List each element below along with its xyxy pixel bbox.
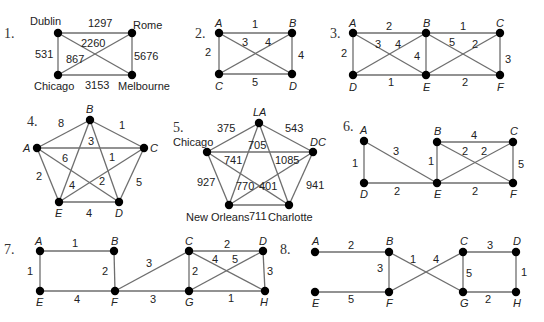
vertex-dot-icon <box>459 248 467 256</box>
edge-weight: 1 <box>228 292 234 304</box>
edge-weight: 4 <box>433 253 439 265</box>
vertex-dot-icon <box>496 71 504 79</box>
vertex-dot-icon <box>360 179 368 187</box>
edge-weight: 1 <box>252 18 258 30</box>
vertex-label: D <box>349 81 357 93</box>
graph-7: 7.112433223145ABCDEFGH <box>4 235 273 308</box>
edge-weight: 705 <box>248 139 266 151</box>
edge-weight: 2 <box>485 293 491 305</box>
edge-weight: 1 <box>109 151 115 163</box>
graph-number: 7. <box>4 242 15 257</box>
vertex-dot-icon <box>140 144 148 152</box>
edge-weight: 4 <box>212 253 218 265</box>
edge-weight: 4 <box>86 207 92 219</box>
vertex-dot-icon <box>261 287 269 295</box>
vertex-label: G <box>460 297 469 309</box>
edge-weight: 2 <box>99 175 105 187</box>
vertex-label: Chicago <box>34 80 74 92</box>
edge-weight: 2 <box>386 20 392 32</box>
edge-D-H <box>263 251 265 291</box>
vertex-label: LA <box>253 106 266 118</box>
vertex-label: H <box>513 297 521 309</box>
vertex-dot-icon <box>509 138 517 146</box>
vertex-label: C <box>496 17 504 29</box>
edge-weight: 3 <box>487 239 493 251</box>
edge-weight: 2 <box>462 76 468 88</box>
graph-number: 4. <box>27 114 38 129</box>
vertex-label: A <box>311 235 319 247</box>
edge-weight: 4 <box>395 38 401 50</box>
edge-weight: 2 <box>102 265 108 277</box>
vertex-dot-icon <box>509 179 517 187</box>
edge-weight: 3 <box>88 135 94 147</box>
graph-8: 8.235143512ABCDEFGH <box>280 235 527 309</box>
vertex-dot-icon <box>288 70 296 78</box>
edge-weight: 6 <box>62 152 68 164</box>
vertex-label: E <box>423 81 431 93</box>
graph-number: 3. <box>330 26 341 41</box>
edge-weight: 1 <box>352 157 358 169</box>
edge-weight: 4 <box>298 49 304 61</box>
edge-weight: 711 <box>249 210 267 222</box>
vertex-label: B <box>289 17 296 29</box>
vertex-label: F <box>111 296 119 308</box>
vertex-dot-icon <box>36 287 44 295</box>
vertex-dot-icon <box>215 29 223 37</box>
vertex-label: Rome <box>133 19 162 31</box>
edge-A-D <box>37 148 119 202</box>
vertex-label: H <box>260 296 268 308</box>
edge-weight: 3 <box>375 38 381 50</box>
vertex-label: B <box>86 103 93 115</box>
graph-exercise-canvas: 1.1297531567631532260867DublinRomeChicag… <box>0 0 544 322</box>
vertex-dot-icon <box>55 198 63 206</box>
edge-weight: 2 <box>462 145 468 157</box>
vertex-label: E <box>312 297 320 309</box>
vertex-label: B <box>386 235 393 247</box>
vertex-dot-icon <box>512 288 520 296</box>
vertex-label: A <box>22 142 30 154</box>
edge-weight: 3 <box>377 262 383 274</box>
vertex-label: C <box>460 235 468 247</box>
vertex-label: B <box>111 235 118 247</box>
vertex-label: D <box>115 207 123 219</box>
vertex-label: D <box>289 80 297 92</box>
vertex-label: C <box>150 142 158 154</box>
vertex-dot-icon <box>185 247 193 255</box>
edge-weight: 2 <box>348 239 354 251</box>
edge-weight: 1 <box>388 76 394 88</box>
vertex-dot-icon <box>496 29 504 37</box>
edge-weight: 2 <box>472 185 478 197</box>
vertex-label: F <box>386 297 394 309</box>
vertex-dot-icon <box>185 287 193 295</box>
vertex-label: DC <box>310 136 326 148</box>
vertex-dot-icon <box>54 29 62 37</box>
edge-weight: 3 <box>150 293 156 305</box>
edge-weight: 5 <box>252 76 258 88</box>
edge-weight: 3 <box>393 145 399 157</box>
vertex-label: C <box>215 80 223 92</box>
edge-weight: 2 <box>472 38 478 50</box>
vertex-dot-icon <box>115 198 123 206</box>
edge-weight: 1085 <box>275 154 299 166</box>
graph-1: 1.1297531567631532260867DublinRomeChicag… <box>4 15 170 92</box>
edge-weight: 4 <box>69 179 75 191</box>
edge-weight: 1 <box>460 20 466 32</box>
edge-weight: 2 <box>36 170 42 182</box>
graph-6: 6.132145222ABCDEF <box>343 119 524 200</box>
vertex-label: A <box>34 235 42 247</box>
vertex-dot-icon <box>36 247 44 255</box>
edge-weight: 531 <box>35 48 53 60</box>
vertex-dot-icon <box>111 287 119 295</box>
graph-number: 1. <box>4 26 15 41</box>
edge-weight: 3 <box>242 36 248 48</box>
edge-weight: 1297 <box>88 17 112 29</box>
edge-weight: 5 <box>449 36 455 48</box>
vertex-dot-icon <box>360 137 368 145</box>
edge-weight: 941 <box>306 179 324 191</box>
vertex-label: A <box>214 17 222 29</box>
graph-4: 4.8162544321BACED <box>22 103 158 219</box>
edge-weight: 2 <box>341 47 347 59</box>
vertex-label: Dublin <box>30 15 61 27</box>
edge-weight: 2 <box>394 185 400 197</box>
vertex-dot-icon <box>86 116 94 124</box>
